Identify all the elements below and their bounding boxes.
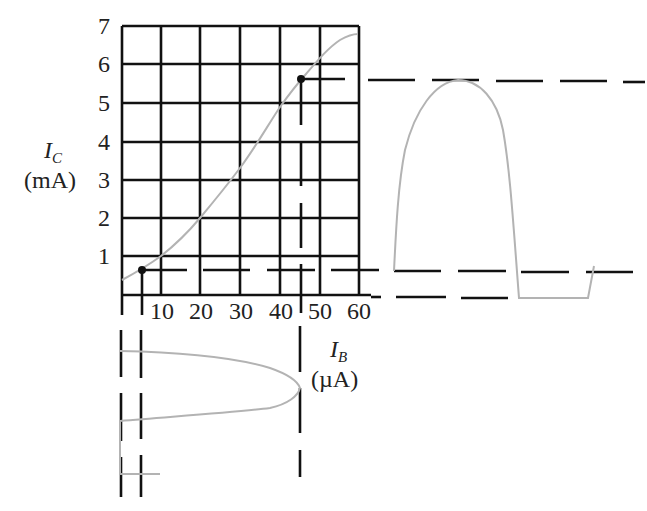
projection-dashed-low-horizontal [142,270,633,272]
x-tick-50: 50 [308,298,332,324]
input-waveform [120,351,300,474]
x-tick-labels: 10 20 30 40 50 60 [150,298,371,324]
output-waveform [394,80,594,298]
x-tick-30: 30 [229,298,253,324]
grid [122,26,371,315]
y-tick-labels: 1 2 3 4 5 6 7 [98,13,110,269]
y-tick-7: 7 [98,13,110,39]
x-axis-unit: (µA) [311,366,358,392]
y-tick-2: 2 [98,205,110,231]
y-axis-label: IC (mA) [24,137,76,193]
y-axis-unit: (mA) [24,167,76,193]
x-tick-40: 40 [269,298,293,324]
zero-level-dashed-line [371,297,508,298]
y-tick-6: 6 [98,51,110,77]
x-axis-symbol: IB [329,336,347,365]
transistor-transfer-diagram: 1 2 3 4 5 6 7 10 20 30 40 50 60 IC (mA) … [0,0,647,511]
y-tick-4: 4 [98,129,110,155]
projection-dashed-high-vertical [300,79,301,477]
y-tick-3: 3 [98,167,110,193]
y-tick-1: 1 [98,243,110,269]
x-axis-label: IB (µA) [311,336,358,392]
projection-dashed-high-horizontal [301,79,645,82]
x-tick-60: 60 [347,298,371,324]
x-tick-10: 10 [150,298,174,324]
y-axis-symbol: IC [43,137,63,166]
x-tick-20: 20 [189,298,213,324]
y-tick-5: 5 [98,90,110,116]
